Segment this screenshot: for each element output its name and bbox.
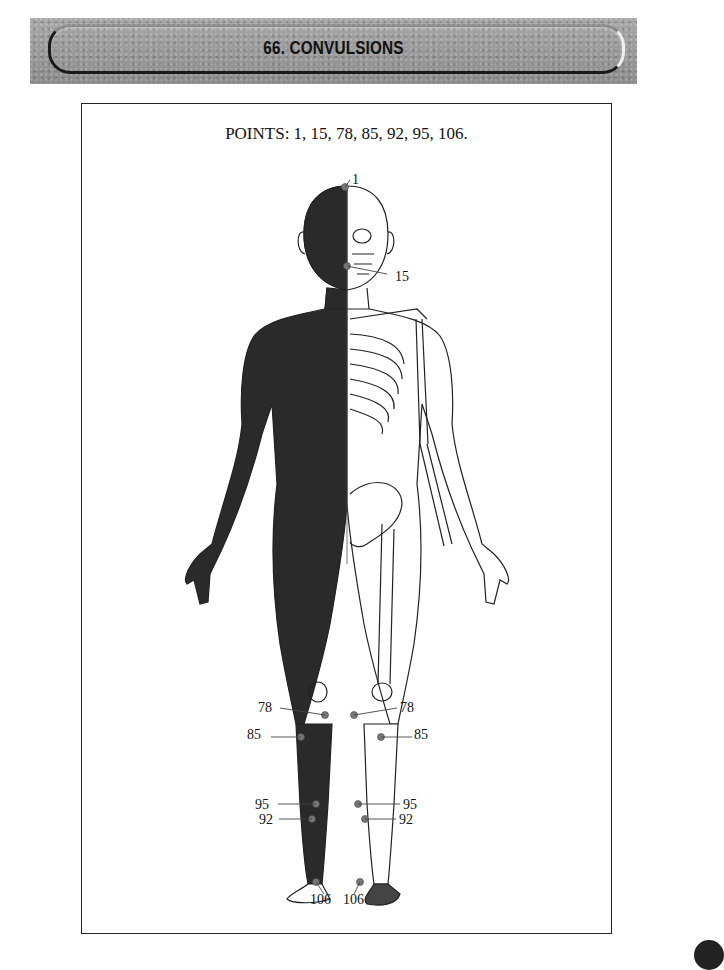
chapter-title: 66. CONVULSIONS bbox=[76, 38, 592, 59]
label-point-106-right: 106 bbox=[343, 892, 364, 908]
page-marker-dot bbox=[694, 940, 724, 970]
label-point-15: 15 bbox=[395, 269, 409, 285]
label-point-1: 1 bbox=[352, 172, 359, 188]
label-point-85-right: 85 bbox=[414, 727, 428, 743]
label-point-78-left: 78 bbox=[258, 700, 272, 716]
label-point-95-right: 95 bbox=[403, 797, 417, 813]
chapter-banner: 66. CONVULSIONS bbox=[30, 18, 637, 84]
label-point-92-left: 92 bbox=[259, 812, 273, 828]
figure-frame: POINTS: 1, 15, 78, 85, 92, 95, 106. bbox=[81, 103, 612, 934]
label-point-95-left: 95 bbox=[255, 797, 269, 813]
label-point-85-left: 85 bbox=[247, 727, 261, 743]
label-point-92-right: 92 bbox=[399, 812, 413, 828]
label-point-78-right: 78 bbox=[400, 700, 414, 716]
label-point-106-left: 106 bbox=[310, 892, 331, 908]
anatomy-figure bbox=[82, 104, 613, 935]
